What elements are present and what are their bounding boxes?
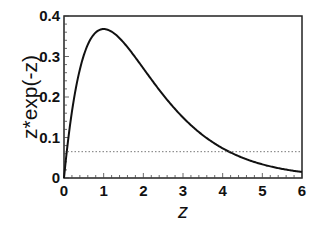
chart: 012345600.10.20.30.4 z*exp(-z) z [0,0,320,229]
y-tick-label: 0.2 [39,88,60,105]
y-tick-label: 0 [52,169,60,186]
x-tick-label: 0 [60,182,68,199]
x-tick-label: 6 [298,182,306,199]
curve-line [64,29,302,178]
x-tick-label: 4 [218,182,227,199]
x-tick-label: 3 [179,182,187,199]
y-tick-label: 0.3 [39,48,60,65]
y-tick-label: 0.1 [39,129,60,146]
x-tick-label: 1 [99,182,107,199]
y-axis-label: z*exp(-z) [18,55,41,139]
x-tick-label: 2 [139,182,147,199]
y-tick-label: 0.4 [39,7,61,24]
plot-frame [64,16,302,178]
x-tick-label: 5 [258,182,266,199]
x-axis-label: z [177,200,188,222]
plot-area: 012345600.10.20.30.4 [39,7,306,199]
